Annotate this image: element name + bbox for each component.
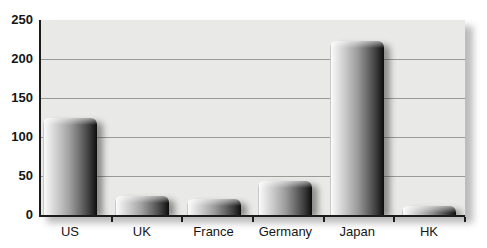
x-axis-tick — [111, 217, 113, 222]
bar-us — [43, 118, 97, 215]
bar-chart: 050100150200250 USUKFranceGermanyJapanHK — [0, 0, 487, 248]
gridline-100 — [41, 137, 465, 138]
y-axis-label-250: 250 — [2, 12, 33, 28]
bar-france — [187, 199, 241, 215]
y-axis-label-150: 150 — [2, 90, 33, 106]
x-axis-tick — [252, 217, 254, 222]
gridline-150 — [41, 98, 465, 99]
gridline-50 — [41, 176, 465, 177]
x-axis-tick — [323, 217, 325, 222]
gridline-200 — [41, 59, 465, 60]
bar-japan — [330, 41, 384, 215]
x-axis-label-hk: HK — [387, 224, 471, 240]
y-axis-label-100: 100 — [2, 129, 33, 145]
y-axis-label-200: 200 — [2, 51, 33, 67]
bar-uk — [115, 196, 169, 216]
y-axis-label-50: 50 — [2, 168, 33, 184]
x-axis-tick — [464, 217, 466, 222]
y-axis-label-0: 0 — [2, 207, 33, 223]
x-axis-tick — [181, 217, 183, 222]
bar-hk — [402, 206, 456, 215]
plot-area — [39, 20, 465, 217]
x-axis-tick — [393, 217, 395, 222]
bar-germany — [258, 181, 312, 215]
